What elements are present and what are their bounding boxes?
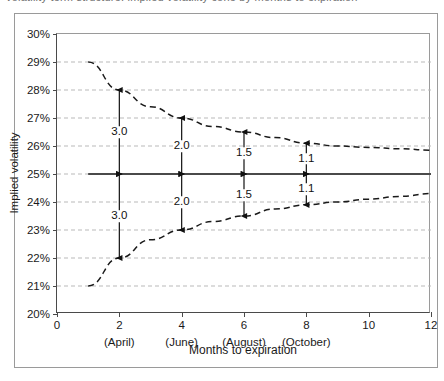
annotation-value-label: 1.5 — [235, 189, 253, 201]
annotation-value-label: 2.0 — [173, 140, 191, 152]
y-tick-label: 29% — [27, 56, 50, 68]
y-tick-mark — [53, 62, 57, 63]
y-tick-label: 22% — [27, 252, 50, 264]
x-tick-label: 6 — [241, 319, 247, 331]
x-tick-month-label: (June) — [165, 336, 198, 348]
x-tick-mark — [182, 312, 183, 317]
y-tick-mark — [53, 174, 57, 175]
x-tick-label: 8 — [303, 319, 309, 331]
y-tick-mark — [53, 258, 57, 259]
x-tick-month-label: (October) — [282, 336, 331, 348]
clipped-caption-artifact: volatility term structure: implied volat… — [0, 0, 444, 9]
x-tick-month-label: (August) — [222, 336, 265, 348]
annotation-value-label: 2.0 — [173, 196, 191, 208]
y-tick-mark — [53, 202, 57, 203]
x-tick-label: 0 — [54, 319, 60, 331]
y-tick-label: 21% — [27, 280, 50, 292]
y-tick-mark — [53, 146, 57, 147]
y-tick-label: 26% — [27, 140, 50, 152]
annotation-value-label: 3.0 — [110, 210, 128, 222]
plot-area: 20%21%22%23%24%25%26%27%28%29%30%02(Apri… — [56, 33, 430, 313]
annotation-value-label: 1.1 — [297, 153, 315, 165]
x-tick-month-label: (April) — [104, 336, 135, 348]
x-tick-mark — [306, 312, 307, 317]
y-tick-label: 28% — [27, 84, 50, 96]
x-tick-mark — [57, 312, 58, 317]
y-tick-label: 23% — [27, 224, 50, 236]
annotation-value-label: 1.5 — [235, 147, 253, 159]
y-tick-mark — [53, 34, 57, 35]
y-tick-label: 25% — [27, 168, 50, 180]
annotation-value-label: 3.0 — [110, 126, 128, 138]
x-tick-label: 4 — [178, 319, 184, 331]
y-tick-label: 27% — [27, 112, 50, 124]
x-tick-label: 2 — [116, 319, 122, 331]
y-tick-label: 20% — [27, 308, 50, 320]
x-tick-mark — [431, 312, 432, 317]
y-tick-label: 24% — [27, 196, 50, 208]
y-tick-mark — [53, 90, 57, 91]
y-tick-mark — [53, 286, 57, 287]
y-tick-mark — [53, 118, 57, 119]
x-tick-mark — [119, 312, 120, 317]
y-tick-mark — [53, 230, 57, 231]
clipped-caption-text: volatility term structure: implied volat… — [6, 0, 358, 3]
chart-curves — [57, 34, 431, 314]
x-tick-label: 12 — [425, 319, 438, 331]
x-tick-mark — [369, 312, 370, 317]
x-tick-mark — [244, 312, 245, 317]
data-series — [88, 62, 431, 286]
figure-stage: volatility term structure: implied volat… — [0, 0, 444, 381]
y-axis-title: Implied volatility — [8, 132, 20, 213]
x-tick-label: 10 — [362, 319, 375, 331]
y-tick-label: 30% — [27, 28, 50, 40]
annotation-value-label: 1.1 — [297, 184, 315, 196]
